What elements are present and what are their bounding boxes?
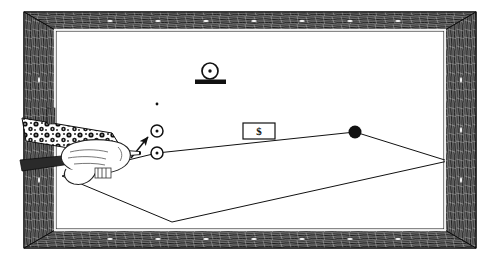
spot-marker bbox=[156, 103, 159, 106]
coin-base bbox=[195, 80, 226, 85]
ball-object-upper bbox=[151, 125, 163, 137]
ball-cue bbox=[151, 147, 163, 159]
coin-center-dot bbox=[208, 69, 211, 72]
billiard-illustration: $ bbox=[0, 0, 499, 257]
dollar-sign-label: $ bbox=[256, 125, 262, 137]
frame-rail-top bbox=[24, 12, 476, 30]
ball-eight-solid-black bbox=[349, 126, 362, 139]
cue-grip-detail bbox=[95, 168, 111, 178]
dollar-bill-card: $ bbox=[243, 123, 275, 139]
rail-behind-arm bbox=[47, 108, 55, 124]
frame-rail-bottom bbox=[24, 230, 476, 248]
